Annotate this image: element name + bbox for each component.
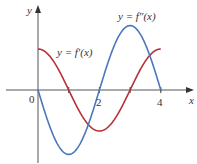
tick-label-2: 2 <box>96 96 102 108</box>
x-axis-label: x <box>188 94 194 106</box>
x-axis-arrow-icon <box>186 87 194 93</box>
tick-label-4: 4 <box>157 96 163 108</box>
fprime-label: y = f′(x) <box>56 46 93 59</box>
fdoubleprime-label: y = f″(x) <box>117 10 156 23</box>
origin-label: 0 <box>29 93 35 105</box>
chart: y x 0 2 4 y = f′(x) y = f″(x) <box>0 0 197 164</box>
y-axis-label: y <box>26 4 32 16</box>
y-axis-arrow-icon <box>35 5 41 13</box>
